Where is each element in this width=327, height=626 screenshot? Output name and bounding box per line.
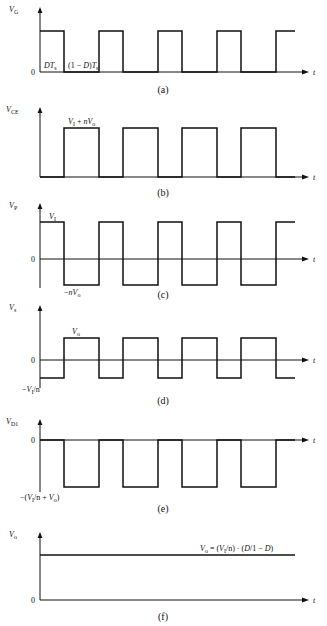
panel-e: VD1 t 0 −(VI/n + Vo) (e)	[6, 417, 316, 515]
panel-f-equation-label: Vo = (VI/n) · (D/1 − D)	[200, 544, 273, 554]
panel-f-t-arrow	[302, 597, 309, 602]
panel-a-y-arrow	[38, 7, 43, 13]
panel-a-annotation-1-d-ts: (1 − D)Ts	[68, 61, 99, 71]
panel-c-waveform	[40, 222, 295, 285]
panel-c: VP t 0 VI −nVo (c)	[9, 201, 316, 301]
panel-c-zero-label: 0	[31, 255, 35, 264]
panel-d: Vs t 0 Vo −VI/n (d)	[9, 303, 316, 407]
panel-c-high-label: VI	[49, 212, 56, 222]
panel-b-t-label: t	[313, 173, 316, 182]
panel-c-t-arrow	[302, 256, 309, 261]
panel-b-high-label: VI + nVo	[68, 117, 95, 127]
panel-a-annotation-dts: DTs	[43, 61, 57, 71]
panel-a-t-label: t	[313, 68, 316, 77]
panel-d-high-label: Vo	[72, 327, 80, 337]
panel-a-zero-label: 0	[31, 68, 35, 77]
waveform-figure: VG t 0 DTs (1 − D)Ts (a) VCE t VI + nVo …	[0, 0, 327, 626]
panel-c-t-label: t	[313, 255, 316, 264]
panel-d-y-arrow	[38, 305, 43, 311]
panel-f-caption: (f)	[158, 611, 168, 623]
panel-e-t-arrow	[302, 437, 309, 442]
panel-c-caption: (c)	[157, 289, 168, 301]
panel-b-t-arrow	[302, 174, 309, 179]
panel-e-waveform	[40, 440, 295, 487]
panel-b-caption: (b)	[157, 187, 169, 199]
panel-a: VG t 0 DTs (1 − D)Ts (a)	[9, 5, 316, 96]
panel-e-caption: (e)	[157, 503, 168, 515]
panel-d-low-label: −VI/n	[22, 385, 40, 395]
panel-c-y-axis-label: VP	[9, 201, 18, 211]
panel-c-y-arrow	[38, 203, 43, 209]
panel-b-y-arrow	[38, 107, 43, 113]
panel-f-y-axis-label: Vo	[9, 530, 17, 540]
panel-e-y-arrow	[38, 419, 43, 425]
panel-d-caption: (d)	[157, 395, 169, 407]
panel-b-waveform	[40, 128, 295, 177]
panel-e-low-label: −(VI/n + Vo)	[20, 493, 60, 503]
panel-d-t-arrow	[302, 357, 309, 362]
panel-a-t-arrow	[302, 69, 309, 74]
panel-e-y-axis-label: VD1	[6, 417, 18, 427]
panel-e-zero-label: 0	[31, 436, 35, 445]
panel-a-y-axis-label: VG	[9, 5, 19, 15]
panel-e-t-label: t	[313, 436, 316, 445]
panel-f: Vo t 0 Vo = (VI/n) · (D/1 − D) (f)	[9, 530, 316, 623]
panel-d-t-label: t	[313, 356, 316, 365]
panel-b: VCE t VI + nVo (b)	[6, 105, 316, 199]
panel-c-low-label: −nVo	[64, 288, 80, 298]
panel-a-caption: (a)	[157, 84, 168, 96]
panel-d-zero-label: 0	[31, 356, 35, 365]
panel-f-t-label: t	[313, 596, 316, 605]
panel-b-y-axis-label: VCE	[6, 105, 19, 115]
panel-f-zero-label: 0	[31, 596, 35, 605]
panel-d-y-axis-label: Vs	[9, 303, 17, 313]
panel-f-y-arrow	[38, 532, 43, 538]
panel-d-waveform	[40, 338, 295, 378]
